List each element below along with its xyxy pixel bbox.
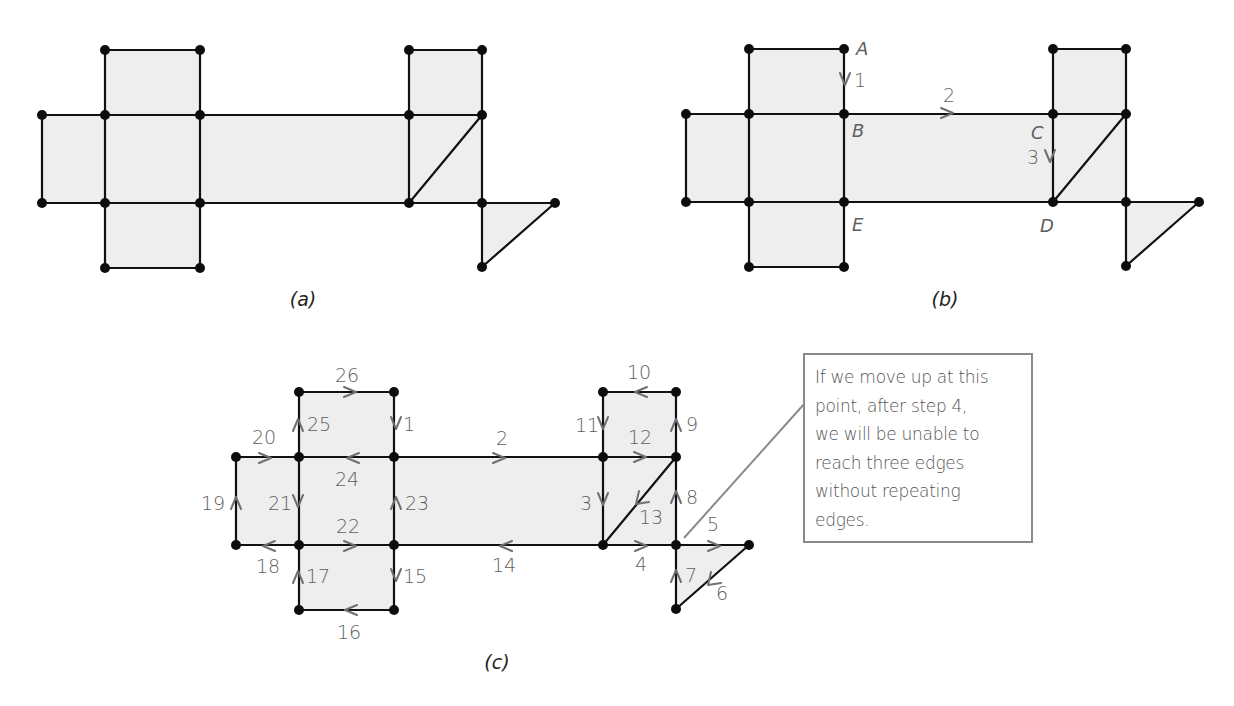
step-label-1: 1 xyxy=(854,69,866,91)
step-label-4: 4 xyxy=(635,553,647,575)
step-label-26: 26 xyxy=(335,364,359,386)
step-label-20: 20 xyxy=(252,426,276,448)
vertex-label-c: C xyxy=(1031,122,1044,143)
callout-line-2: point, after step 4, xyxy=(815,392,1025,421)
euler-path-diagram: (a) A 1 2 B C 3 D E (b) xyxy=(0,0,1234,706)
callout-line-3: we will be unable to xyxy=(815,420,1025,449)
step-label-7: 7 xyxy=(685,564,697,586)
step-label-15: 15 xyxy=(403,565,427,587)
step-label-2: 2 xyxy=(496,427,508,449)
vertex-label-b: B xyxy=(852,120,864,141)
callout-line-5: without repeating xyxy=(815,477,1025,506)
step-label-2: 2 xyxy=(943,84,955,106)
step-label-19: 19 xyxy=(201,492,225,514)
graph-b xyxy=(681,44,1204,272)
graph-a xyxy=(37,45,560,273)
callout-line-4: reach three edges xyxy=(815,449,1025,478)
callout-box: If we move up at this point, after step … xyxy=(803,353,1033,543)
caption-a: (a) xyxy=(290,288,316,310)
step-label-10: 10 xyxy=(627,361,651,383)
panel-a: (a) xyxy=(37,45,560,310)
step-label-5: 5 xyxy=(707,513,719,535)
callout-line-6: edges. xyxy=(815,506,1025,535)
step-label-6: 6 xyxy=(716,582,728,604)
vertex-label-e: E xyxy=(852,214,864,235)
step-label-18: 18 xyxy=(256,555,280,577)
step-label-11: 11 xyxy=(575,414,599,436)
step-label-17: 17 xyxy=(306,565,330,587)
vertex-label-a: A xyxy=(855,38,868,59)
step-label-23: 23 xyxy=(405,492,429,514)
callout-line-1: If we move up at this xyxy=(815,363,1025,392)
panel-b: A 1 2 B C 3 D E (b) xyxy=(681,38,1204,310)
step-label-3: 3 xyxy=(1027,146,1039,168)
step-label-22: 22 xyxy=(336,515,360,537)
callout-pointer xyxy=(684,403,805,538)
step-label-24: 24 xyxy=(335,468,359,490)
caption-c: (c) xyxy=(484,651,509,673)
step-label-3: 3 xyxy=(580,492,592,514)
vertex-label-d: D xyxy=(1040,215,1054,236)
step-label-9: 9 xyxy=(686,413,698,435)
step-label-12: 12 xyxy=(628,426,652,448)
step-label-14: 14 xyxy=(492,554,516,576)
step-label-21: 21 xyxy=(268,492,292,514)
panel-c: 1 2 3 4 5 6 7 8 9 10 11 12 13 14 15 16 1… xyxy=(201,361,805,673)
step-label-1: 1 xyxy=(403,413,415,435)
step-label-16: 16 xyxy=(337,621,361,643)
step-label-13: 13 xyxy=(639,506,663,528)
step-label-25: 25 xyxy=(307,413,331,435)
step-label-8: 8 xyxy=(686,486,698,508)
caption-b: (b) xyxy=(932,288,959,310)
